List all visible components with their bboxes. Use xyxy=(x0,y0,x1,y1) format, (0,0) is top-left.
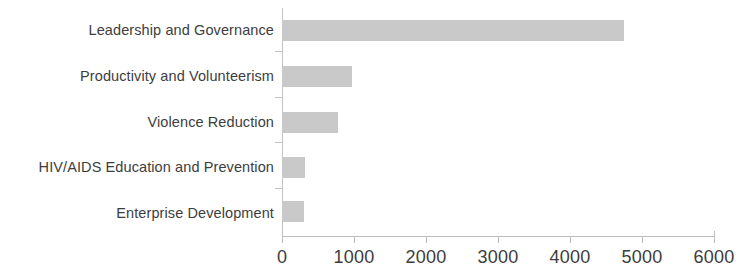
x-axis-tick xyxy=(282,236,283,243)
y-axis-tick xyxy=(275,188,282,189)
y-axis-tick xyxy=(275,51,282,52)
category-label: Productivity and Volunteerism xyxy=(6,68,274,84)
x-axis-tick-label: 6000 xyxy=(674,246,739,268)
bar xyxy=(282,157,305,178)
x-axis-tick-label: 1000 xyxy=(314,246,394,268)
x-axis-tick-label: 4000 xyxy=(530,246,610,268)
x-axis-tick xyxy=(642,236,643,243)
bar xyxy=(282,66,352,87)
category-label: Violence Reduction xyxy=(6,114,274,130)
x-axis-tick xyxy=(426,236,427,243)
x-axis-tick-label: 0 xyxy=(242,246,322,268)
x-axis-tick xyxy=(354,236,355,243)
y-axis-tick xyxy=(275,142,282,143)
bar xyxy=(282,20,624,41)
x-axis-tick-label: 5000 xyxy=(602,246,682,268)
x-axis-tick-label: 2000 xyxy=(386,246,466,268)
x-axis-tick xyxy=(570,236,571,243)
bar xyxy=(282,201,304,222)
x-axis-tick xyxy=(498,236,499,243)
y-axis-tick xyxy=(275,97,282,98)
x-axis-tick xyxy=(714,236,715,243)
category-label: Enterprise Development xyxy=(6,205,274,221)
category-label: HIV/AIDS Education and Prevention xyxy=(6,159,274,175)
category-label: Leadership and Governance xyxy=(6,22,274,38)
bar xyxy=(282,112,338,133)
x-axis-tick-label: 3000 xyxy=(458,246,538,268)
